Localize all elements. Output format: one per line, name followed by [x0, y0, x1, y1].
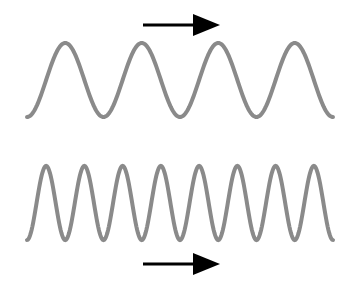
wave-diagram — [0, 0, 354, 298]
